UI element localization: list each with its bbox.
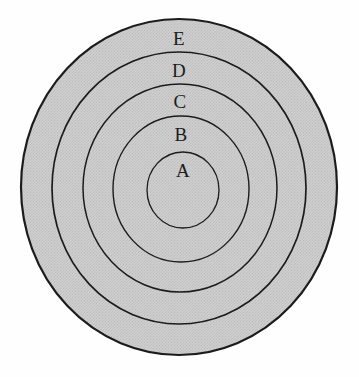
ring-label-d: D [172,60,186,81]
ring-label-e: E [173,28,185,49]
ring-label-a: A [176,160,190,181]
concentric-circles-diagram: E D C B A [0,0,359,377]
ring-label-c: C [173,91,186,112]
ring-label-b: B [174,124,187,145]
concentric-circles-svg: E D C B A [0,0,359,377]
